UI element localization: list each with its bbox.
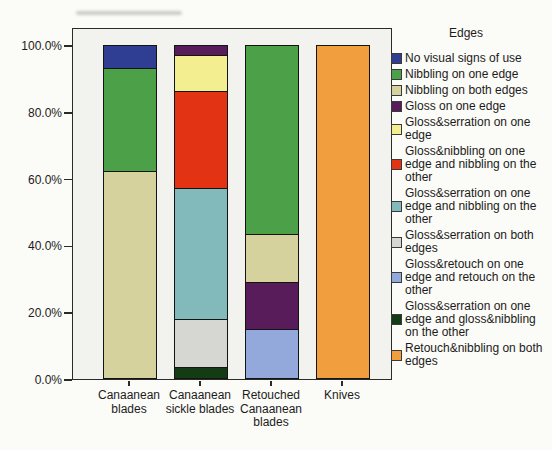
x-axis-tick <box>128 381 130 386</box>
legend-item: Gloss&serration on one edge and gloss&ni… <box>391 300 549 339</box>
legend-item: Nibbling on both edges <box>391 84 549 97</box>
legend-swatch <box>391 69 402 80</box>
legend-swatch <box>391 101 402 112</box>
legend-item: Gloss&retouch on one edge and retouch on… <box>391 258 549 297</box>
bar-segment <box>246 46 298 235</box>
bar-segment <box>104 46 156 69</box>
legend-label: Gloss&serration on one edge and nibbling… <box>405 187 549 226</box>
bar-segment <box>175 320 227 368</box>
legend-item: Retouch&nibbling on both edges <box>391 342 549 368</box>
y-axis-tick-label: 0.0% <box>10 373 62 387</box>
legend-label: Gloss&serration on one edge <box>405 116 549 142</box>
legend-label: No visual signs of use <box>405 52 522 65</box>
legend-swatch <box>391 124 402 135</box>
legend-swatch <box>391 314 402 325</box>
legend-label: Nibbling on both edges <box>405 84 528 97</box>
scan-artifact <box>76 11 182 15</box>
bar-2 <box>174 45 228 379</box>
x-axis-tick <box>270 381 272 386</box>
bar-3 <box>245 45 299 379</box>
legend-swatch <box>391 53 402 64</box>
y-axis-tick-label: 20.0% <box>10 306 62 320</box>
legend-swatch <box>391 350 402 361</box>
legend-label: Gloss&retouch on one edge and retouch on… <box>405 258 549 297</box>
legend-item: Gloss on one edge <box>391 100 549 113</box>
y-axis-tick <box>64 179 72 181</box>
bar-segment <box>104 69 156 172</box>
legend-label: Gloss&serration on both edges <box>405 229 549 255</box>
legend-swatch <box>391 85 402 96</box>
y-axis-tick-label: 40.0% <box>10 239 62 253</box>
legend-item: Nibbling on one edge <box>391 68 549 81</box>
bar-1 <box>103 45 157 379</box>
bar-4 <box>316 45 370 379</box>
x-axis-label: Knives <box>300 389 384 403</box>
legend-item: Gloss&serration on one edge and nibbling… <box>391 187 549 226</box>
bar-segment <box>175 92 227 188</box>
x-axis-tick <box>199 381 201 386</box>
legend-label: Gloss on one edge <box>405 100 506 113</box>
plot-area <box>72 28 392 380</box>
legend-label: Gloss&serration on one edge and gloss&ni… <box>405 300 549 339</box>
y-axis-tick <box>64 379 72 381</box>
bar-segment <box>175 56 227 93</box>
y-axis-tick <box>64 312 72 314</box>
bar-segment <box>175 368 227 378</box>
legend-swatch <box>391 159 402 170</box>
y-axis-tick <box>64 112 72 114</box>
legend-item: Gloss&nibbling on one edge and nibbling … <box>391 145 549 184</box>
legend-item: Gloss&serration on both edges <box>391 229 549 255</box>
y-axis-tick <box>64 246 72 248</box>
bar-segment <box>246 235 298 283</box>
legend-item: Gloss&serration on one edge <box>391 116 549 142</box>
chart-figure: 0.0%20.0%40.0%60.0%80.0%100.0% Canaanean… <box>0 0 552 450</box>
legend-swatch <box>391 201 402 212</box>
bar-segment <box>104 172 156 378</box>
legend-label: Gloss&nibbling on one edge and nibbling … <box>405 145 549 184</box>
y-axis-tick-label: 80.0% <box>10 106 62 120</box>
legend: Edges No visual signs of useNibbling on … <box>391 26 549 371</box>
legend-title: Edges <box>391 26 541 40</box>
bar-segment <box>175 46 227 56</box>
legend-items: No visual signs of useNibbling on one ed… <box>391 52 549 368</box>
bar-segment <box>317 46 369 378</box>
legend-swatch <box>391 272 402 283</box>
legend-swatch <box>391 237 402 248</box>
bar-segment <box>246 330 298 378</box>
legend-label: Nibbling on one edge <box>405 68 518 81</box>
bar-segment <box>175 189 227 320</box>
y-axis-tick-label: 60.0% <box>10 173 62 187</box>
x-axis-tick <box>341 381 343 386</box>
bar-segment <box>246 283 298 329</box>
legend-label: Retouch&nibbling on both edges <box>405 342 549 368</box>
legend-item: No visual signs of use <box>391 52 549 65</box>
y-axis-tick <box>64 45 72 47</box>
y-axis-tick-label: 100.0% <box>10 39 62 53</box>
